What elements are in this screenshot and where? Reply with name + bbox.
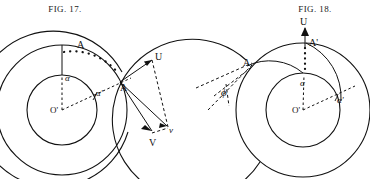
fig-17-label-v-upper: V	[149, 137, 157, 148]
fig-17-label-v-lower: v	[169, 125, 173, 135]
fig-17-outer-circle	[0, 45, 127, 175]
fig-18-vector-u-arrowhead	[301, 27, 309, 36]
fig-17-vector-v-small-arrowhead	[159, 123, 167, 128]
fig-18-label-a-left: A	[243, 57, 251, 68]
fig-18-label-alpha: α	[300, 78, 305, 88]
fig-18-group: U A' A α α' O' ϕ	[112, 16, 370, 179]
figure-plate: FIG. 17. FIG. 18.	[0, 0, 370, 179]
fig-18-spiral-arc	[112, 39, 260, 179]
fig-17-label-a-top: A	[77, 39, 85, 50]
fig-18-label-phi: ϕ	[221, 86, 227, 98]
fig-18-label-origin: O'	[292, 105, 300, 115]
fig-17-dashed-v-to-v	[152, 128, 168, 133]
fig-17-spiral-arc	[0, 31, 128, 179]
figures-drawing: A A α α' O' U v V	[0, 0, 370, 179]
fig-18-intermediate-arc	[247, 61, 303, 73]
fig-18-radius-to-alpha-prime	[303, 86, 355, 110]
fig-17-label-alpha: α	[65, 73, 70, 83]
fig-17-label-alpha-prime: α'	[96, 88, 104, 98]
fig-18-label-u: U	[300, 16, 308, 27]
fig-18-label-a-prime: A'	[309, 37, 318, 48]
fig-17-dashed-u-to-v	[152, 60, 168, 127]
fig-17-label-origin: O'	[50, 105, 58, 115]
fig-17-label-u: U	[155, 51, 163, 62]
fig-18-label-alpha-prime: α'	[337, 95, 345, 105]
